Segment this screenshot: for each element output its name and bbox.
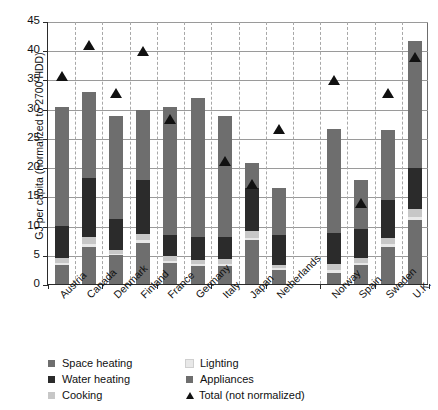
x-separator-dashed [184, 22, 185, 284]
x-separator-dashed [157, 22, 158, 284]
x-separator-dashed [211, 22, 212, 284]
y-tick-mark [43, 51, 48, 52]
x-tick-mark [266, 284, 267, 289]
bar-segment-water-heating [327, 233, 341, 263]
bar-segment-space-heating [327, 129, 341, 233]
y-tick-label: 25 [12, 131, 40, 143]
x-tick-mark [157, 284, 158, 289]
x-tick-mark [375, 284, 376, 289]
bar-segment-lighting [109, 254, 123, 256]
x-tick-mark [48, 284, 49, 289]
total-marker-sweden [382, 88, 394, 98]
bar-segment-cooking [55, 258, 69, 263]
y-tick-mark [43, 168, 48, 169]
bar-u-k [408, 41, 422, 284]
legend-swatch-icon [186, 376, 193, 383]
bar-germany [191, 98, 205, 284]
y-tick-label: 45 [12, 14, 40, 26]
total-marker-netherlands [273, 124, 285, 134]
total-marker-japan [246, 179, 258, 189]
x-separator-dashed [239, 22, 240, 284]
legend-item: Appliances [186, 371, 305, 387]
legend-item: Water heating [48, 371, 132, 387]
y-tick-label: 5 [12, 248, 40, 260]
total-marker-norway [328, 75, 340, 85]
bar-segment-appliances [381, 247, 395, 284]
bar-segment-water-heating [163, 235, 177, 256]
y-tick-mark [43, 197, 48, 198]
y-tick-label: 0 [12, 277, 40, 289]
bar-segment-space-heating [218, 116, 232, 236]
x-tick-mark [102, 284, 103, 289]
bar-sweden [381, 130, 395, 284]
total-marker-austria [56, 71, 68, 81]
bar-segment-appliances [218, 266, 232, 284]
x-separator-dashed [347, 22, 348, 284]
bar-segment-appliances [354, 265, 368, 284]
total-marker-denmark [110, 88, 122, 98]
bar-segment-water-heating [82, 178, 96, 238]
y-axis-title: GJ per capita (normalized to 2700 HDD) [33, 21, 45, 271]
y-tick-label: 15 [12, 189, 40, 201]
legend-label: Space heating [62, 358, 132, 369]
y-tick-label: 30 [12, 102, 40, 114]
bar-segment-water-heating [191, 237, 205, 260]
x-tick-mark [320, 284, 321, 289]
bar-segment-appliances [191, 266, 205, 284]
bar-segment-space-heating [381, 130, 395, 200]
bar-segment-lighting [55, 263, 69, 265]
bar-segment-cooking [82, 237, 96, 244]
y-tick-mark [43, 227, 48, 228]
x-separator-dashed [130, 22, 131, 284]
x-tick-mark [429, 284, 430, 289]
bar-spain [354, 180, 368, 284]
legend-label: Appliances [200, 374, 254, 385]
bar-france [163, 107, 177, 284]
bar-segment-water-heating [218, 237, 232, 259]
x-separator-dashed [320, 22, 321, 284]
y-tick-mark [43, 139, 48, 140]
bar-finland [136, 110, 150, 284]
bar-segment-water-heating [381, 200, 395, 239]
bar-italy [218, 116, 232, 284]
bar-segment-cooking [109, 250, 123, 254]
bar-segment-cooking [191, 260, 205, 264]
total-marker-spain [355, 198, 367, 208]
x-separator-dashed [375, 22, 376, 284]
total-marker-finland [137, 46, 149, 56]
bar-segment-space-heating [163, 107, 177, 235]
bar-norway [327, 129, 341, 284]
y-tick-mark [43, 22, 48, 23]
bar-segment-cooking [245, 231, 259, 238]
bar-segment-lighting [191, 264, 205, 266]
bar-segment-lighting [272, 268, 286, 270]
x-separator-dashed [293, 22, 294, 284]
plot-right-border [427, 22, 428, 284]
bar-segment-lighting [327, 270, 341, 273]
legend-swatch-icon [48, 392, 55, 399]
bar-segment-cooking [272, 265, 286, 269]
bar-segment-cooking [381, 238, 395, 244]
bar-austria [55, 107, 69, 284]
legend-label: Lighting [200, 358, 239, 369]
bar-segment-space-heating [109, 116, 123, 218]
y-tick-label: 10 [12, 219, 40, 231]
legend-label: Cooking [62, 390, 102, 401]
legend-swatch-icon [48, 376, 55, 383]
bar-segment-appliances [327, 273, 341, 284]
bar-segment-water-heating [245, 188, 259, 231]
bar-segment-appliances [408, 220, 422, 284]
legend-column-right: LightingAppliancesTotal (not normalized) [186, 355, 305, 403]
x-separator-dashed [102, 22, 103, 284]
bar-segment-space-heating [136, 110, 150, 180]
legend-label: Water heating [62, 374, 130, 385]
bar-segment-appliances [82, 247, 96, 284]
bar-segment-cooking [354, 258, 368, 263]
y-tick-label: 35 [12, 72, 40, 84]
bar-netherlands [272, 188, 286, 284]
bar-segment-cooking [218, 259, 232, 264]
legend-triangle-icon [186, 392, 194, 399]
bar-segment-lighting [408, 217, 422, 220]
x-separator-dashed [402, 22, 403, 284]
bar-segment-space-heating [55, 107, 69, 226]
